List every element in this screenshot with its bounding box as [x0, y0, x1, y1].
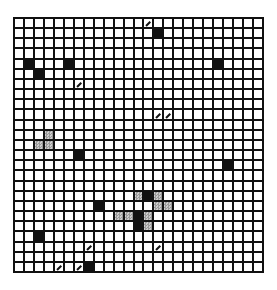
grid-cell[interactable] — [184, 39, 192, 47]
grid-cell-slash[interactable] — [85, 243, 93, 251]
grid-cell[interactable] — [244, 29, 252, 37]
grid-cell[interactable] — [95, 29, 103, 37]
grid-cell[interactable] — [55, 192, 63, 200]
grid-cell[interactable] — [184, 49, 192, 57]
grid-cell[interactable] — [194, 222, 202, 230]
grid-cell[interactable] — [214, 70, 222, 78]
grid-cell[interactable] — [35, 80, 43, 88]
grid-cell[interactable] — [35, 212, 43, 220]
grid-cell[interactable] — [214, 212, 222, 220]
grid-cell[interactable] — [45, 161, 53, 169]
grid-cell[interactable] — [65, 212, 73, 220]
grid-cell[interactable] — [125, 80, 133, 88]
grid-cell[interactable] — [204, 49, 212, 57]
grid-cell[interactable] — [184, 253, 192, 261]
grid-cell[interactable] — [55, 232, 63, 240]
grid-cell[interactable] — [105, 110, 113, 118]
grid-cell[interactable] — [45, 70, 53, 78]
grid-cell[interactable] — [144, 49, 152, 57]
grid-cell[interactable] — [55, 171, 63, 179]
grid-cell[interactable] — [254, 243, 262, 251]
grid-cell[interactable] — [224, 263, 232, 271]
grid-cell[interactable] — [35, 151, 43, 159]
grid-cell-black[interactable] — [25, 60, 33, 68]
grid-cell[interactable] — [174, 49, 182, 57]
grid-cell[interactable] — [55, 161, 63, 169]
grid-cell[interactable] — [65, 222, 73, 230]
grid-cell[interactable] — [224, 131, 232, 139]
grid-cell[interactable] — [194, 243, 202, 251]
grid-cell[interactable] — [224, 110, 232, 118]
grid-cell[interactable] — [75, 222, 83, 230]
grid-cell[interactable] — [25, 80, 33, 88]
grid-cell[interactable] — [95, 110, 103, 118]
grid-cell[interactable] — [204, 80, 212, 88]
grid-cell[interactable] — [154, 60, 162, 68]
grid-cell[interactable] — [55, 100, 63, 108]
grid-cell[interactable] — [75, 90, 83, 98]
grid-cell[interactable] — [204, 141, 212, 149]
grid-cell[interactable] — [135, 151, 143, 159]
grid-cell[interactable] — [254, 110, 262, 118]
grid-cell[interactable] — [15, 161, 23, 169]
grid-cell[interactable] — [55, 151, 63, 159]
grid-cell[interactable] — [25, 202, 33, 210]
grid-cell[interactable] — [125, 90, 133, 98]
grid-cell[interactable] — [254, 232, 262, 240]
grid-cell-slash[interactable] — [55, 263, 63, 271]
grid-cell[interactable] — [55, 212, 63, 220]
grid-cell[interactable] — [105, 192, 113, 200]
grid-cell[interactable] — [204, 222, 212, 230]
grid-cell-gray[interactable] — [115, 212, 123, 220]
grid-cell[interactable] — [15, 151, 23, 159]
grid-cell[interactable] — [214, 100, 222, 108]
grid-cell[interactable] — [25, 49, 33, 57]
grid-cell[interactable] — [105, 19, 113, 27]
grid-cell[interactable] — [224, 232, 232, 240]
grid-cell[interactable] — [254, 70, 262, 78]
grid-cell[interactable] — [105, 60, 113, 68]
grid-cell[interactable] — [85, 131, 93, 139]
grid-cell[interactable] — [174, 70, 182, 78]
grid-cell[interactable] — [95, 263, 103, 271]
grid-cell[interactable] — [144, 60, 152, 68]
grid-cell[interactable] — [85, 151, 93, 159]
grid-cell-slash[interactable] — [154, 243, 162, 251]
grid-cell[interactable] — [115, 171, 123, 179]
grid-cell[interactable] — [55, 19, 63, 27]
grid-cell[interactable] — [75, 100, 83, 108]
grid-cell[interactable] — [45, 19, 53, 27]
grid-cell[interactable] — [244, 141, 252, 149]
grid-cell[interactable] — [254, 182, 262, 190]
grid-cell[interactable] — [95, 60, 103, 68]
grid-cell[interactable] — [164, 80, 172, 88]
grid-cell[interactable] — [194, 182, 202, 190]
grid-cell-gray[interactable] — [154, 192, 162, 200]
grid-cell[interactable] — [125, 161, 133, 169]
grid-cell[interactable] — [204, 60, 212, 68]
grid-cell[interactable] — [254, 121, 262, 129]
grid-cell[interactable] — [105, 141, 113, 149]
grid-cell[interactable] — [95, 212, 103, 220]
grid-cell-black[interactable] — [144, 192, 152, 200]
grid-cell[interactable] — [234, 182, 242, 190]
grid-cell[interactable] — [135, 263, 143, 271]
grid-cell[interactable] — [244, 171, 252, 179]
grid-cell[interactable] — [184, 80, 192, 88]
grid-cell[interactable] — [234, 49, 242, 57]
grid-cell[interactable] — [95, 80, 103, 88]
grid-cell[interactable] — [115, 141, 123, 149]
grid-cell[interactable] — [135, 60, 143, 68]
grid-cell[interactable] — [25, 192, 33, 200]
grid-cell-black[interactable] — [65, 60, 73, 68]
grid-cell[interactable] — [214, 222, 222, 230]
grid-cell[interactable] — [95, 19, 103, 27]
grid-cell[interactable] — [154, 182, 162, 190]
grid-cell[interactable] — [224, 39, 232, 47]
grid-cell[interactable] — [244, 243, 252, 251]
grid-cell[interactable] — [25, 243, 33, 251]
grid-cell[interactable] — [45, 222, 53, 230]
grid-cell[interactable] — [115, 100, 123, 108]
grid-cell[interactable] — [234, 60, 242, 68]
grid-cell[interactable] — [184, 29, 192, 37]
